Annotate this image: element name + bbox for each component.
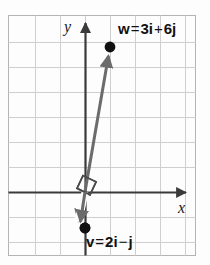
vector-w-equals: = bbox=[130, 20, 141, 37]
vector-v-equals: = bbox=[94, 233, 105, 250]
endpoint-dot-v-final bbox=[80, 223, 91, 234]
right-angle-marker-redraw bbox=[77, 176, 96, 195]
vector-w-operator: + bbox=[153, 20, 164, 37]
y-axis-label: y bbox=[64, 19, 71, 35]
vector-v-operator: − bbox=[118, 233, 129, 250]
x-axis-label: x bbox=[178, 200, 185, 216]
vector-diagram-figure: y x w=3i+6j v=2i−j bbox=[0, 0, 210, 265]
vector-v-label: v=2i−j bbox=[86, 234, 133, 249]
vector-overlay bbox=[0, 0, 210, 265]
vector-w-i-term: 3i bbox=[140, 20, 153, 37]
vector-v-j-term: j bbox=[128, 233, 132, 250]
vector-w-name: w bbox=[118, 20, 130, 37]
vector-w-j-term: 6j bbox=[164, 20, 177, 37]
vector-w-label: w=3i+6j bbox=[118, 21, 176, 36]
vector-v-i-term: 2i bbox=[105, 233, 118, 250]
